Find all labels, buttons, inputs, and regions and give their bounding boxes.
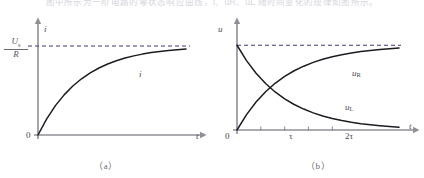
chart-panel-b: u t 0 τ 2τ uR uL （b） <box>212 12 424 178</box>
x-axis-label-a: t <box>196 132 199 141</box>
panel-caption-b: （b） <box>212 159 424 172</box>
asymptote-denominator: R <box>4 50 28 59</box>
x-tick-label-2tau: 2τ <box>345 132 353 141</box>
curve-label-ur: uR <box>352 69 361 79</box>
origin-label-b: 0 <box>225 132 230 141</box>
asymptote-label-us-over-r: Us R <box>4 37 28 59</box>
curve-label-ur-subscript: R <box>357 71 361 78</box>
asymptote-numerator-subscript: s <box>18 41 21 48</box>
curve-label-ul-subscript: L <box>350 105 354 112</box>
curve-label-i: i <box>139 70 142 79</box>
x-tick-label-tau: τ <box>289 132 293 141</box>
x-axis-label-b: t <box>409 122 412 131</box>
y-axis-label-b: u <box>218 25 223 34</box>
chart-b-canvas <box>212 12 424 162</box>
chart-a-canvas <box>0 12 212 162</box>
origin-label-a: 0 <box>26 131 31 140</box>
top-caption-text: 图中所示为一阶电路的零状态响应曲线，i、uR、uL 随时间变化的规律如图所示。 <box>0 0 424 6</box>
y-axis-label-a: i <box>44 25 47 34</box>
figure-root: 图中所示为一阶电路的零状态响应曲线，i、uR、uL 随时间变化的规律如图所示。 … <box>0 0 424 178</box>
curve-label-ul: uL <box>345 103 353 113</box>
panel-caption-a: （a） <box>0 159 212 172</box>
chart-panel-a: Us R i t 0 i （a） <box>0 12 212 178</box>
